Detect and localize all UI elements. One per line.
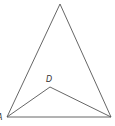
edge-A-apex bbox=[7, 4, 60, 117]
edge-apex-B bbox=[60, 4, 111, 117]
geometry-diagram: D A bbox=[0, 0, 115, 126]
label-d: D bbox=[46, 75, 52, 84]
edge-A-D bbox=[7, 87, 50, 117]
label-a: A bbox=[0, 113, 2, 122]
edge-D-B bbox=[50, 87, 111, 117]
